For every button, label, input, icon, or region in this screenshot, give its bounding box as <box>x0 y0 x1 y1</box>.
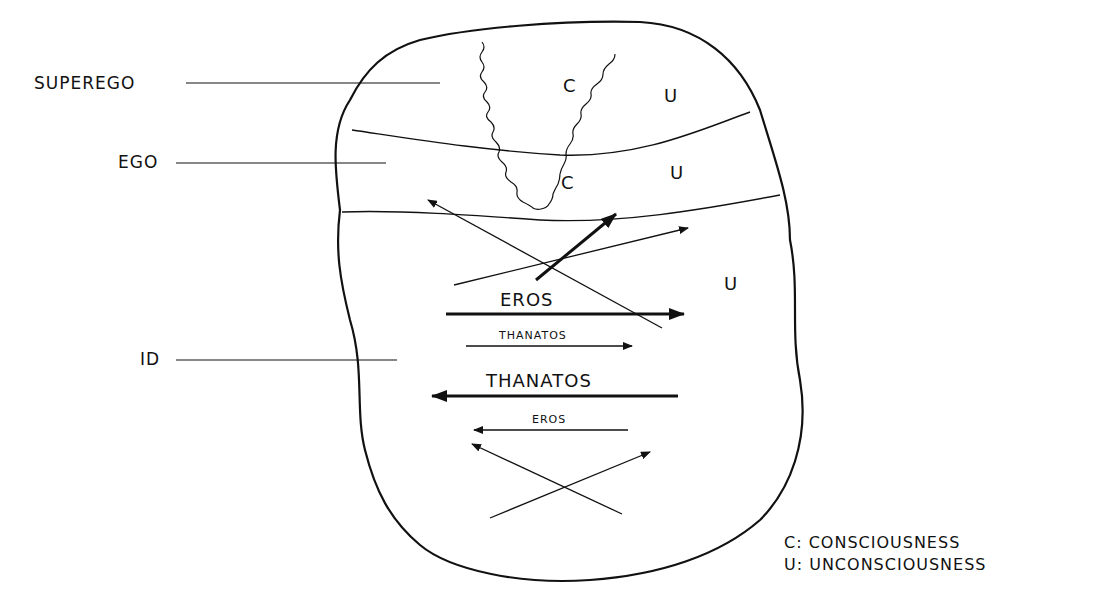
arrow-low-left <box>472 444 622 514</box>
eros-small-label: EROS <box>532 413 566 426</box>
psyche-outline <box>336 22 803 581</box>
consciousness-boundary <box>480 42 615 209</box>
superego-label: SUPEREGO <box>34 73 135 93</box>
superego-ego-boundary <box>352 112 750 155</box>
ego-id-boundary <box>342 195 780 221</box>
superego-conscious-label: C <box>563 75 577 96</box>
arrow-low-right <box>490 452 650 518</box>
arrow-up-thick <box>536 214 616 280</box>
eros-big-label: EROS <box>500 289 553 310</box>
thanatos-big-label: THANATOS <box>486 370 592 391</box>
id-unconscious-label: U <box>724 273 738 294</box>
superego-unconscious-label: U <box>664 85 678 106</box>
ego-conscious-label: C <box>561 172 575 193</box>
legend-unconsciousness: U: UNCONSCIOUSNESS <box>784 554 987 576</box>
id-label: ID <box>140 349 160 369</box>
ego-unconscious-label: U <box>670 162 684 183</box>
legend-consciousness: C: CONSCIOUSNESS <box>784 532 987 554</box>
thanatos-small-label: THANATOS <box>499 329 567 342</box>
arrow-up-right <box>454 228 688 285</box>
legend: C: CONSCIOUSNESS U: UNCONSCIOUSNESS <box>784 532 987 576</box>
ego-label: EGO <box>118 152 158 172</box>
